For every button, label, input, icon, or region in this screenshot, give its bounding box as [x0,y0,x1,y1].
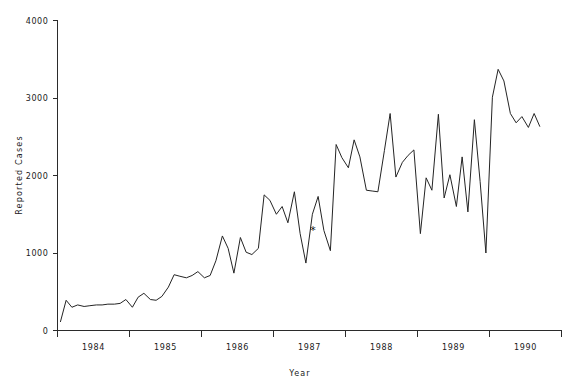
y-axis: 01000200030004000 [26,17,58,336]
series-line [60,69,540,322]
y-tick-label: 0 [43,327,49,336]
x-tick-label: 1984 [82,343,105,352]
x-axis-title: Year [288,369,311,378]
x-tick-label: 1988 [370,343,393,352]
x-tick-label: 1986 [226,343,249,352]
line-chart-plot: 01000200030004000 1984198519861987198819… [0,0,574,389]
asterisk-marker: * [310,224,316,237]
y-tick-label: 1000 [26,249,49,258]
y-tick-label: 2000 [26,172,49,181]
x-tick-label: 1987 [298,343,321,352]
y-tick-label: 3000 [26,94,49,103]
y-tick-label: 4000 [26,17,49,26]
x-axis: 1984198519861987198819891990 [58,331,562,352]
annotations-group: * [310,224,316,237]
y-axis-title: Reported Cases [15,135,24,215]
data-series-group [60,69,540,322]
x-tick-label: 1989 [442,343,465,352]
x-tick-label: 1990 [514,343,537,352]
chart-container: 01000200030004000 1984198519861987198819… [0,0,574,389]
x-tick-label: 1985 [154,343,177,352]
